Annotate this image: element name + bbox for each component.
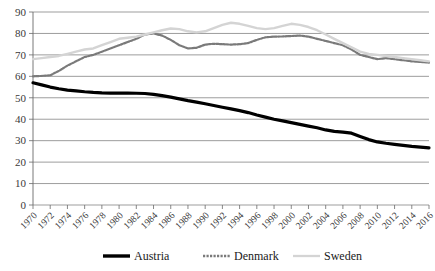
x-tick-label-2010: 2010 — [363, 210, 384, 231]
y-axis-ticks — [29, 12, 33, 205]
x-tick-label-2012: 2012 — [380, 210, 401, 231]
x-tick-label-2016: 2016 — [414, 210, 435, 231]
y-tick-label-50: 50 — [15, 92, 27, 104]
y-tick-label-20: 20 — [15, 156, 27, 168]
x-tick-label-1976: 1976 — [70, 210, 91, 231]
x-tick-label-2000: 2000 — [277, 210, 298, 231]
x-tick-label-2006: 2006 — [328, 210, 349, 231]
y-tick-label-10: 10 — [15, 177, 27, 189]
legend-label-sweden: Sweden — [324, 249, 362, 263]
y-tick-label-60: 60 — [15, 70, 27, 82]
x-tick-label-1996: 1996 — [242, 210, 263, 231]
x-tick-label-1978: 1978 — [87, 210, 108, 231]
x-tick-label-1974: 1974 — [53, 210, 74, 231]
x-tick-label-1998: 1998 — [259, 210, 280, 231]
series-line-austria — [33, 83, 429, 148]
x-tick-label-1972: 1972 — [36, 210, 57, 231]
x-axis-labels: 1970197219741976197819801982198419861988… — [18, 210, 435, 231]
x-tick-label-1992: 1992 — [208, 210, 229, 231]
y-tick-label-30: 30 — [15, 134, 27, 146]
chart-legend: AustriaDenmarkSweden — [103, 249, 362, 263]
x-tick-label-1982: 1982 — [122, 210, 143, 231]
x-tick-label-1994: 1994 — [225, 210, 246, 231]
y-tick-label-80: 80 — [15, 27, 27, 39]
y-tick-label-0: 0 — [21, 199, 27, 211]
legend-label-austria: Austria — [134, 249, 170, 263]
x-tick-label-2004: 2004 — [311, 210, 332, 231]
x-axis-ticks — [33, 205, 429, 209]
x-tick-label-2014: 2014 — [397, 210, 418, 231]
x-tick-label-1986: 1986 — [156, 210, 177, 231]
x-tick-label-1984: 1984 — [139, 210, 160, 231]
legend-label-denmark: Denmark — [234, 249, 279, 263]
y-tick-label-70: 70 — [15, 49, 27, 61]
x-tick-label-1980: 1980 — [104, 210, 125, 231]
x-tick-label-2002: 2002 — [294, 210, 315, 231]
y-tick-label-40: 40 — [15, 113, 27, 125]
data-series — [33, 23, 429, 148]
x-tick-label-1990: 1990 — [191, 210, 212, 231]
chart-canvas: 0102030405060708090 19701972197419761978… — [0, 0, 435, 271]
y-tick-label-90: 90 — [15, 6, 27, 18]
x-tick-label-1970: 1970 — [18, 210, 39, 231]
x-tick-label-1988: 1988 — [173, 210, 194, 231]
line-chart: 0102030405060708090 19701972197419761978… — [0, 0, 435, 271]
y-axis-labels: 0102030405060708090 — [15, 6, 27, 211]
x-tick-label-2008: 2008 — [346, 210, 367, 231]
